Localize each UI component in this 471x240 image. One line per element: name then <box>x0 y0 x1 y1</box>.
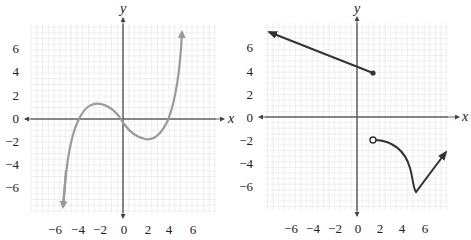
svg-text:−4: −4 <box>5 157 19 172</box>
svg-text:−2: −2 <box>239 133 253 148</box>
cubic-curve <box>63 32 182 207</box>
left-x-tick-labels: −6 −4 −2 0 2 4 6 <box>48 222 197 237</box>
svg-text:−4: −4 <box>71 222 85 237</box>
svg-text:2: 2 <box>377 221 384 236</box>
svg-text:−2: −2 <box>5 134 19 149</box>
open-endpoint <box>370 137 376 143</box>
svg-text:4: 4 <box>166 222 173 237</box>
svg-text:2: 2 <box>13 88 20 103</box>
svg-text:−2: −2 <box>328 221 342 236</box>
right-y-tick-labels: 6 4 2 0 −2 −4 −6 <box>239 40 253 194</box>
svg-text:−6: −6 <box>239 179 253 194</box>
svg-text:4: 4 <box>13 64 20 79</box>
right-x-tick-labels: −6 −4 −2 0 2 4 6 <box>284 221 429 236</box>
svg-text:4: 4 <box>247 64 254 79</box>
svg-text:0: 0 <box>13 111 20 126</box>
svg-text:0: 0 <box>355 221 362 236</box>
left-y-tick-labels: 6 4 2 0 −2 −4 −6 <box>5 41 19 195</box>
svg-text:6: 6 <box>13 41 20 56</box>
svg-text:0: 0 <box>121 222 128 237</box>
svg-text:−6: −6 <box>48 222 62 237</box>
left-graph: x y −6 −4 −2 0 2 4 6 6 4 2 0 −2 −4 −6 <box>5 1 235 237</box>
closed-endpoint <box>370 70 375 75</box>
left-x-axis-label: x <box>227 111 235 126</box>
svg-text:−2: −2 <box>93 222 107 237</box>
right-graph: x y −6 −4 −2 0 2 4 6 6 4 2 0 −2 −4 −6 <box>239 1 469 236</box>
svg-text:−6: −6 <box>284 221 298 236</box>
right-y-axis-label: y <box>352 1 361 16</box>
svg-text:0: 0 <box>247 110 254 125</box>
figure: x y −6 −4 −2 0 2 4 6 6 4 2 0 −2 −4 −6 x <box>0 0 471 240</box>
svg-text:−4: −4 <box>306 221 320 236</box>
svg-text:−4: −4 <box>239 156 253 171</box>
svg-text:4: 4 <box>399 221 406 236</box>
svg-text:2: 2 <box>247 87 254 102</box>
svg-text:−6: −6 <box>5 180 19 195</box>
svg-text:2: 2 <box>145 222 152 237</box>
svg-text:6: 6 <box>247 40 254 55</box>
svg-text:6: 6 <box>422 221 429 236</box>
svg-text:6: 6 <box>190 222 197 237</box>
right-x-axis-label: x <box>461 109 469 124</box>
left-y-axis-label: y <box>118 1 127 16</box>
